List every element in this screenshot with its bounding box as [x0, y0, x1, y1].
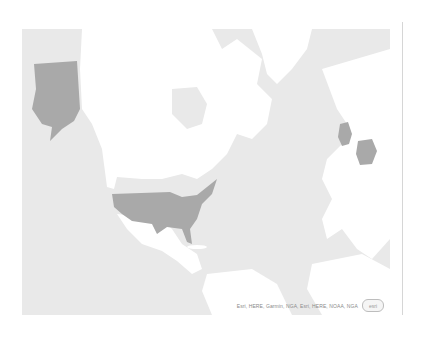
- cuba-land: [187, 245, 207, 249]
- esri-logo[interactable]: esri: [362, 299, 384, 312]
- map-view[interactable]: Esri, HERE, Garmin, NGA, Esri, HERE, NOA…: [22, 29, 390, 315]
- alaska-region[interactable]: [32, 61, 80, 141]
- greenland-land: [252, 29, 312, 84]
- map-canvas[interactable]: [22, 29, 390, 315]
- map-attribution: Esri, HERE, Garmin, NGA, Esri, HERE, NOA…: [237, 303, 358, 309]
- panel-divider: [402, 22, 403, 315]
